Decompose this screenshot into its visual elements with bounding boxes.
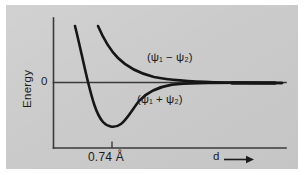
antibonding-curve-label: (ψ₁ − ψ₂) xyxy=(147,51,193,63)
x-axis-tick-label: 0.74 Å xyxy=(88,150,124,164)
y-axis-label: Energy xyxy=(21,70,33,108)
plot-canvas xyxy=(0,0,304,175)
y-axis-zero-label: 0 xyxy=(41,75,47,87)
x-axis-label: d xyxy=(213,150,219,162)
figure-root: Energy 0 0.74 Å (ψ₁ − ψ₂) (ψ₁ + ψ₂) d xyxy=(0,0,304,175)
d-axis-arrow-icon xyxy=(224,156,254,163)
bonding-curve-label: (ψ₁ + ψ₂) xyxy=(137,93,183,105)
